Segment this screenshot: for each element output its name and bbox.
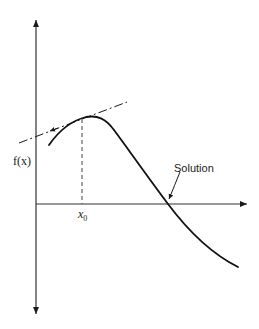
function-curve (49, 117, 238, 267)
solution-leader-arrow (169, 172, 180, 199)
x0-label-subscript: 0 (83, 214, 87, 223)
solution-label: Solution (174, 162, 214, 174)
y-axis-label: f(x) (13, 155, 31, 167)
newton-method-diagram (0, 0, 259, 329)
x0-label: x0 (78, 208, 87, 225)
tangent-arrow-icon (50, 128, 58, 131)
